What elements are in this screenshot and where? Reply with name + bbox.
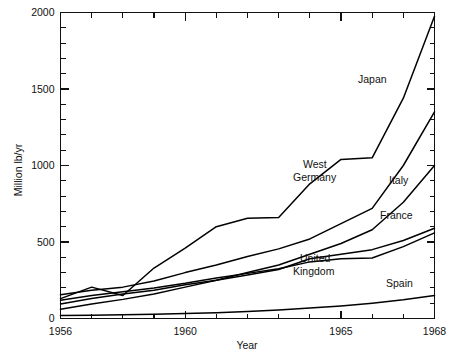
chart-background [0,0,452,360]
y-tick-label: 0 [49,312,55,324]
x-tick-label: 1968 [423,325,447,337]
x-tick-label: 1965 [329,325,353,337]
series-label: Spain [386,277,413,289]
series-label: United [300,252,331,264]
series-label: Germany [293,171,337,183]
series-label: Japan [358,73,387,85]
x-axis-title: Year [236,339,258,351]
series-label: France [380,209,413,221]
y-axis-title: Million lb/yr [12,143,24,196]
series-label: Italy [389,174,409,186]
series-label: Kingdom [293,265,335,277]
y-tick-label: 2000 [31,6,55,18]
x-tick-label: 1960 [173,325,197,337]
x-tick-label: 1956 [49,325,73,337]
y-tick-label: 1500 [31,83,55,95]
y-tick-label: 1000 [31,159,55,171]
chart-container: 0500100015002000 1956196019651968 JapanW… [0,0,452,360]
y-tick-label: 500 [37,236,55,248]
line-chart: 0500100015002000 1956196019651968 JapanW… [0,0,452,360]
series-label: West [303,158,327,170]
